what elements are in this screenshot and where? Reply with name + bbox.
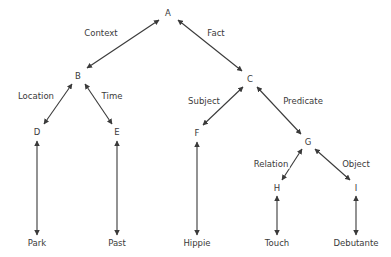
edge-label-fact: Fact [206, 29, 225, 38]
edge-c-g [257, 87, 301, 134]
leaf-hippie: Hippie [182, 239, 211, 248]
node-A: A [164, 9, 172, 18]
node-E: E [113, 128, 120, 137]
node-C: C [246, 75, 254, 84]
edge-label-time: Time [101, 92, 124, 101]
node-I: I [354, 184, 359, 193]
leaf-park: Park [27, 239, 47, 248]
tree-diagram: A B C D E F G H I Context Fact Location … [0, 0, 391, 257]
node-B: B [74, 72, 82, 81]
edge-label-subject: Subject [187, 97, 221, 106]
edge-label-predicate: Predicate [282, 97, 324, 106]
leaf-debutante: Debutante [332, 239, 379, 248]
edge-label-location: Location [17, 92, 55, 101]
node-H: H [273, 184, 281, 193]
leaf-past: Past [107, 239, 127, 248]
node-G: G [304, 138, 313, 147]
node-D: D [33, 128, 42, 137]
node-F: F [194, 129, 201, 138]
edge-label-relation: Relation [253, 160, 290, 169]
edge-label-context: Context [83, 29, 118, 38]
leaf-touch: Touch [264, 239, 290, 248]
edge-c-f [203, 87, 243, 125]
edge-label-object: Object [341, 160, 371, 169]
